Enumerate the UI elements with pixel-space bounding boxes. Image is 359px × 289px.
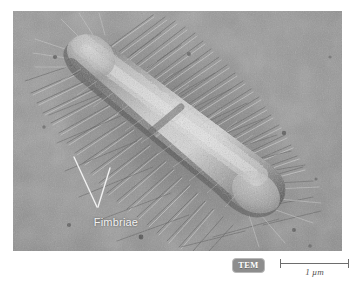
caption-row: TEM 1 µm (13, 256, 349, 284)
micrograph-image: Fimbriae (13, 11, 342, 251)
scale-bar-line (280, 263, 349, 264)
micrograph-canvas (13, 11, 342, 251)
figure-electron-micrograph: Fimbriae TEM 1 µm (0, 0, 359, 289)
scale-bar-label: 1 µm (280, 267, 349, 277)
film-grain-overlay (13, 11, 342, 251)
tem-technique-badge: TEM (232, 258, 265, 273)
scale-bar: 1 µm (280, 256, 349, 282)
